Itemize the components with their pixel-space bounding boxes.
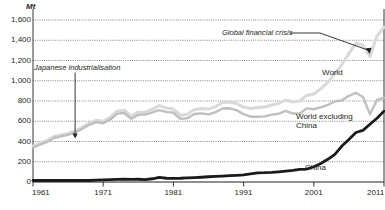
chart-container: Mt 1,6001,4001,2001,0008006004002000 Jap…: [0, 0, 385, 210]
y-tick-label: 600: [1, 117, 31, 125]
x-tick-label: 1981: [164, 189, 182, 197]
japanese-industrialisation-arrow-head: [73, 133, 78, 138]
y-axis-tick-labels: 1,6001,4001,2001,0008006004002000: [0, 0, 31, 210]
x-axis-tick-marks: [33, 182, 384, 187]
series-lines: [33, 27, 384, 180]
x-tick-label: 1971: [94, 189, 112, 197]
y-tick-label: 200: [1, 158, 31, 166]
series-label-world-excluding-china: World excluding China: [296, 112, 353, 130]
series-label-world: World: [322, 68, 343, 77]
annotation-global-financial-crisis: Global financial crisis: [222, 28, 292, 37]
y-tick-label: 1,000: [1, 77, 31, 85]
x-tick-label: 1991: [235, 189, 253, 197]
series-label-china: China: [305, 163, 326, 172]
x-tick-label: 1961: [32, 189, 50, 197]
y-tick-label: 1,200: [1, 57, 31, 65]
y-tick-label: 0: [1, 178, 31, 186]
x-tick-label: 2011: [367, 189, 384, 197]
gridlines: [33, 20, 384, 162]
y-tick-label: 800: [1, 97, 31, 105]
global-financial-crisis-arrow-line: [290, 33, 369, 50]
y-tick-label: 1,400: [1, 36, 31, 44]
x-tick-label: 2001: [305, 189, 323, 197]
series-label-wec-line1: World excluding: [296, 112, 353, 121]
y-tick-label: 1,600: [1, 16, 31, 24]
y-tick-label: 400: [1, 138, 31, 146]
series-label-wec-line2: China: [296, 121, 317, 130]
annotation-japanese-industrialisation: Japanese industrialisation: [34, 63, 120, 72]
chart-plot-area: [0, 0, 385, 210]
